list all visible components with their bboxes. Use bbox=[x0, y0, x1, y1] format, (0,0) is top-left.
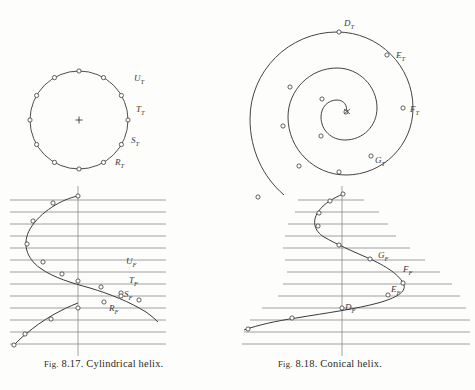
conical-helix-front-curve bbox=[244, 194, 404, 330]
label-U-F: UF bbox=[126, 256, 136, 268]
caption-left-prefix: Fig. bbox=[44, 359, 59, 369]
caption-left-text: Cylindrical helix. bbox=[86, 358, 163, 369]
caption-fig-8-17: Fig. 8.17. Cylindrical helix. bbox=[44, 357, 194, 371]
fig-8-17-front-view bbox=[10, 186, 166, 356]
caption-fig-8-18: Fig. 8.18. Conical helix. bbox=[278, 357, 468, 371]
caption-right-text: Conical helix. bbox=[320, 358, 382, 369]
front-view-point-markers-left bbox=[12, 194, 141, 347]
label-F-T: FT bbox=[410, 104, 419, 116]
construction-lines-right bbox=[242, 200, 470, 344]
label-E-T: ET bbox=[396, 50, 405, 62]
label-S-F: SF bbox=[124, 289, 132, 301]
caption-right-number: 8.18. bbox=[296, 358, 318, 369]
label-U-T: UT bbox=[134, 73, 144, 85]
label-D-F: DF bbox=[345, 302, 355, 314]
label-G-T: GT bbox=[375, 155, 385, 167]
label-D-T: DT bbox=[344, 18, 354, 30]
fig-8-18-front-view bbox=[242, 186, 470, 356]
cylindrical-helix-front-curve-lower bbox=[14, 303, 78, 345]
fig-8-18-top-view bbox=[250, 30, 413, 199]
caption-right-prefix: Fig. bbox=[278, 359, 293, 369]
center-mark-cross bbox=[76, 117, 83, 124]
figure-page: UT TT ST RT UF TF SF RF DT ET FT GT GF F… bbox=[0, 0, 475, 390]
cylindrical-helix-front-curve bbox=[26, 196, 158, 322]
label-T-F: TF bbox=[129, 275, 138, 287]
caption-left-number: 8.17. bbox=[62, 358, 84, 369]
label-F-F: FF bbox=[403, 264, 412, 276]
label-S-T: ST bbox=[131, 135, 139, 147]
label-E-F: EF bbox=[391, 284, 400, 296]
label-T-T: TT bbox=[136, 104, 145, 116]
label-G-F: GF bbox=[378, 250, 388, 262]
fig-8-17-top-view bbox=[28, 69, 130, 171]
label-R-F: RF bbox=[109, 303, 118, 315]
label-R-T: RT bbox=[115, 157, 124, 169]
